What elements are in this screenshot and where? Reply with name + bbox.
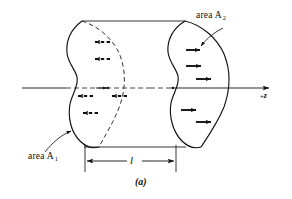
area-a2-text: area A: [196, 10, 222, 20]
field-arrows-right: [181, 50, 211, 122]
blob-left-outline: [67, 21, 99, 148]
blob-right-outline: [168, 21, 229, 148]
area-a1-label: area A1: [28, 152, 58, 163]
area-a1-subscript: 1: [54, 155, 58, 162]
leader-line-area-a1: [45, 131, 71, 152]
field-arrows-left: [78, 42, 127, 113]
blob-left-hidden-edge: [82, 21, 124, 147]
area-a2-subscript: 2: [222, 14, 226, 21]
axis-point-right: [172, 87, 174, 89]
figure-container: area A2 area A1 +z l (a): [0, 0, 292, 199]
z-axis: [22, 87, 269, 89]
axis-point-left: [107, 87, 109, 89]
z-axis-label: +z: [260, 92, 267, 101]
axis-name-text: z: [264, 91, 267, 100]
figure-caption: (a): [135, 177, 147, 187]
area-a2-label: area A2: [196, 11, 226, 22]
length-label: l: [130, 155, 133, 166]
flux-tube-diagram: [0, 0, 292, 199]
area-a1-text: area A: [28, 151, 54, 161]
tube-generator-lines: [82, 21, 186, 147]
